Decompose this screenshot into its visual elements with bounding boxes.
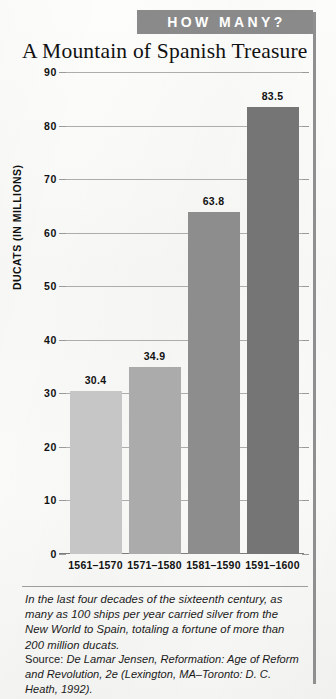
y-axis-tick <box>59 126 66 127</box>
y-axis-tick-label: 70 <box>44 173 57 185</box>
chart-source: Source: De Lamar Jensen, Reformation: Ag… <box>25 652 301 698</box>
y-axis-tick <box>59 500 66 501</box>
y-axis-tick-label: 80 <box>44 120 57 132</box>
bar: 83.5 <box>247 107 299 554</box>
bottom-divider <box>22 586 308 587</box>
y-axis-tick-right <box>302 393 309 394</box>
x-axis-tick-label: 1561–1570 <box>68 559 122 571</box>
x-axis-tick-label: 1571–1580 <box>127 559 181 571</box>
page-right-rule <box>313 12 316 684</box>
bar-value-label: 30.4 <box>85 374 107 386</box>
x-axis-labels: 1561–15701571–15801581–15901591–1600 <box>66 559 302 575</box>
y-axis-tick <box>59 393 66 394</box>
y-axis-tick-right <box>302 126 309 127</box>
y-axis-tick-label: 90 <box>44 66 57 78</box>
y-axis-tick <box>59 233 66 234</box>
gridline <box>66 72 302 73</box>
y-axis-tick-right <box>302 179 309 180</box>
y-axis-tick-right <box>302 233 309 234</box>
y-axis-tick-label: 50 <box>44 280 57 292</box>
y-axis-tick-right <box>302 447 309 448</box>
bar-value-label: 63.8 <box>203 195 225 207</box>
y-axis-tick-right <box>302 554 309 555</box>
y-axis-tick <box>59 286 66 287</box>
chart-title: A Mountain of Spanish Treasure <box>22 39 308 64</box>
y-axis-tick-label: 20 <box>44 441 57 453</box>
chart-caption: In the last four decades of the sixteent… <box>25 592 297 653</box>
y-axis-tick-label: 10 <box>44 494 57 506</box>
y-axis-tick <box>59 340 66 341</box>
y-axis-tick <box>59 554 66 555</box>
bar: 30.4 <box>70 391 122 554</box>
y-axis-title: DUCATS (IN MILLIONS) <box>11 165 23 290</box>
bar-value-label: 83.5 <box>262 90 284 102</box>
y-axis-tick-label: 30 <box>44 387 57 399</box>
x-axis-tick-label: 1581–1590 <box>186 559 240 571</box>
source-prefix: Source: <box>25 653 66 665</box>
plot-area: 010203040506070809030.434.963.883.5 <box>66 72 302 554</box>
y-axis-tick <box>59 179 66 180</box>
y-axis-tick <box>59 72 66 73</box>
y-axis-tick-right <box>302 340 309 341</box>
bar-value-label: 34.9 <box>144 350 166 362</box>
bar: 34.9 <box>129 367 181 554</box>
y-axis-tick-right <box>302 72 309 73</box>
y-axis-tick-label: 40 <box>44 334 57 346</box>
y-axis-tick-right <box>302 500 309 501</box>
y-axis-tick-label: 0 <box>51 548 57 560</box>
y-axis-tick <box>59 447 66 448</box>
x-axis-tick-label: 1591–1600 <box>245 559 299 571</box>
y-axis-tick-label: 60 <box>44 227 57 239</box>
source-author: De Lamar Jensen, <box>66 653 160 665</box>
how-many-banner: HOW MANY? <box>137 10 313 34</box>
y-axis-tick-right <box>302 286 309 287</box>
chart-page: HOW MANY? A Mountain of Spanish Treasure… <box>0 0 336 699</box>
bar: 63.8 <box>188 212 240 554</box>
